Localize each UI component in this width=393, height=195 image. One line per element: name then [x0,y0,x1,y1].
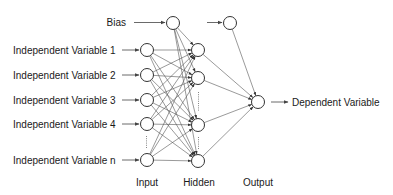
input-label-2: Independent Variable 2 [13,70,116,81]
layer-label-output: Output [243,177,273,188]
hidden-node-4 [192,155,205,168]
edge-input4-hidden3 [153,124,191,125]
edge-input2-hidden1 [153,53,192,72]
hidden-node-3 [192,119,205,132]
input-node-5 [141,154,154,167]
input-label-n: Independent Variable n [13,155,116,166]
edge-bias-hidden1 [177,28,193,45]
neural-network-diagram: Bias Independent Variable 1 Independent … [0,0,393,195]
input-node-3 [141,94,154,107]
input-label-1: Independent Variable 1 [13,45,116,56]
input-label-3: Independent Variable 3 [13,95,116,106]
edge-hidden3-output [204,104,252,122]
edge-hidden4-output [203,107,254,157]
input-bias-node [167,17,180,30]
input-label-4: Independent Variable 4 [13,119,116,130]
input-node-1 [141,44,154,57]
hidden-bias-node [224,17,237,30]
network-nodes [141,17,265,168]
input-node-2 [141,69,154,82]
input-node-4 [141,118,154,131]
edge-input5-hidden3 [152,129,192,157]
edge-input1-hidden2 [153,53,193,75]
output-label: Dependent Variable [292,97,380,108]
hidden-node-2 [192,72,205,85]
output-node [252,96,265,109]
edge-hidden2-output [204,80,252,99]
hidden-node-1 [192,44,205,57]
edge-hidden1-output [203,54,253,97]
input-bias-label: Bias [107,17,126,28]
edge-input5-hidden4 [153,160,191,161]
layer-label-input: Input [136,177,158,188]
edge-hiddenbias-output [232,29,256,96]
layer-label-hidden: Hidden [183,177,215,188]
